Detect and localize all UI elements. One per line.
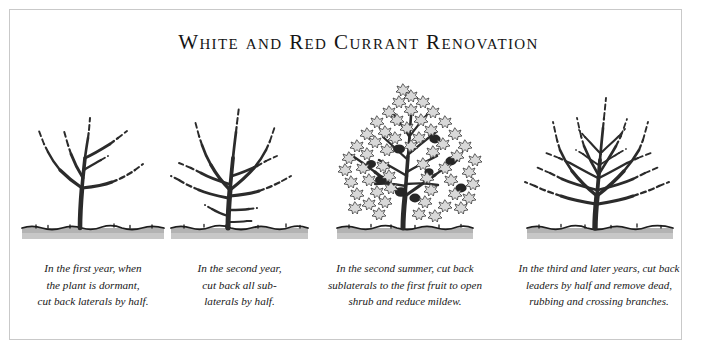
panel-row: In the first year, when the plant is dor… [18,76,699,326]
caption-line: In the second summer, cut back [328,260,482,277]
caption-first-year: In the first year, when the plant is dor… [34,260,153,310]
caption-line: shrub and reduce mildew. [328,293,482,310]
caption-line: In the third and later years, cut back [519,260,680,277]
caption-third-year: In the third and later years, cut back l… [515,260,684,310]
plant-illustration-first-year [18,76,168,256]
soil-band [527,224,673,239]
caption-line: the plant is dormant, [38,277,149,294]
panel-third-and-later-years: In the third and later years, cut back l… [499,76,699,326]
plant-illustration-second-summer [311,76,499,256]
caption-line: cut back all sub- [198,277,282,294]
caption-line: In the second year, [198,260,282,277]
plant-illustration-second-year [168,76,311,256]
caption-second-summer: In the second summer, cut back sublatera… [324,260,486,310]
plant-illustration-third-year [499,76,699,256]
figure-title: White and Red Currant Renovation [0,30,717,54]
caption-line: cut back laterals by half. [38,293,149,310]
caption-second-year: In the second year, cut back all sub- la… [194,260,286,310]
currant-renovation-figure: White and Red Currant Renovation [0,0,717,357]
soil-band [171,224,308,239]
caption-line: leaders by half and remove dead, [519,277,680,294]
panel-first-year: In the first year, when the plant is dor… [18,76,168,326]
caption-line: In the first year, when [38,260,149,277]
panel-second-summer: In the second summer, cut back sublatera… [311,76,499,326]
caption-line: rubbing and crossing branches. [519,293,680,310]
caption-line: sublaterals to the first fruit to open [328,277,482,294]
soil-band [22,224,164,239]
panel-second-year: In the second year, cut back all sub- la… [168,76,311,326]
caption-line: laterals by half. [198,293,282,310]
